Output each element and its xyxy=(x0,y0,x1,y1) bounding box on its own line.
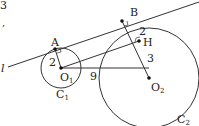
label-o1: O1 xyxy=(60,71,74,85)
label-c1: C1 xyxy=(56,88,69,102)
label-o1o2: 9 xyxy=(90,70,97,83)
label-r1: 2 xyxy=(49,56,56,69)
fragment-text: 3 xyxy=(0,0,7,12)
point-o1 xyxy=(59,66,63,70)
point-o2 xyxy=(147,76,151,80)
label-a: A xyxy=(50,36,60,49)
geometry-diagram: 3 , l A 2 O1 9 C1 B 2 H 3 O2 C2 xyxy=(0,0,199,126)
point-b xyxy=(120,19,124,23)
label-b: B xyxy=(130,6,138,19)
fragment-text-2: , xyxy=(2,17,5,28)
label-h: H xyxy=(143,36,153,49)
label-ho2: 3 xyxy=(147,52,154,65)
right-angle-b xyxy=(124,21,128,26)
label-c2: C2 xyxy=(177,113,190,126)
point-h xyxy=(137,39,141,43)
label-o2: O2 xyxy=(151,81,165,95)
line-label: l xyxy=(1,62,5,75)
